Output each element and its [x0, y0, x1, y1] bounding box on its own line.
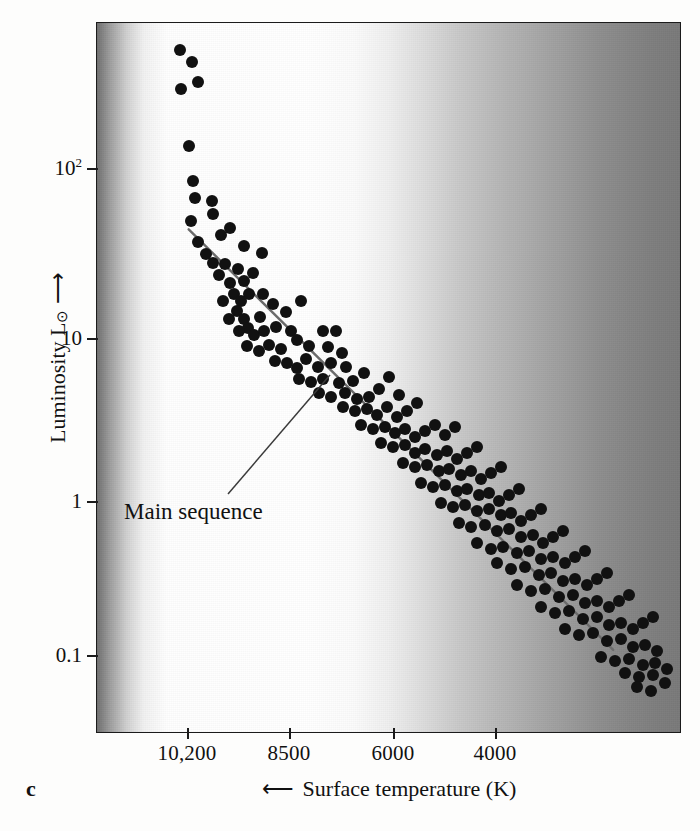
star-data-point — [623, 589, 635, 601]
star-data-point — [651, 645, 663, 657]
star-data-point — [601, 635, 613, 647]
star-data-point — [615, 633, 627, 645]
y-axis-tick — [87, 655, 98, 657]
star-data-point — [485, 543, 497, 555]
star-data-point — [207, 208, 219, 220]
star-data-point — [497, 541, 509, 553]
star-data-point — [449, 421, 461, 433]
star-data-point — [300, 353, 312, 365]
panel-label: c — [26, 776, 36, 802]
star-data-point — [577, 613, 589, 625]
star-data-point — [491, 557, 503, 569]
x-axis-arrow-icon: ⟵ — [262, 776, 294, 802]
x-axis-tick-label: 8500 — [268, 741, 311, 766]
y-axis-tick — [87, 338, 98, 340]
x-axis-tick-label: 10,200 — [158, 741, 217, 766]
y-axis-tick-label: 102 — [55, 155, 83, 181]
star-data-point — [238, 240, 250, 252]
star-data-point — [387, 441, 399, 453]
y-axis-tick-label: 0.1 — [56, 643, 82, 668]
star-data-point — [207, 257, 219, 269]
star-data-point — [373, 383, 385, 395]
star-data-point — [591, 611, 603, 623]
star-data-point — [317, 325, 329, 337]
star-data-point — [523, 545, 535, 557]
star-data-point — [347, 375, 359, 387]
star-data-point — [631, 681, 643, 693]
star-data-point — [515, 531, 527, 543]
star-data-point — [217, 295, 229, 307]
star-data-point — [247, 267, 259, 279]
star-data-point — [367, 423, 379, 435]
star-data-point — [659, 677, 671, 689]
solar-symbol-icon: ⊙ — [54, 310, 70, 323]
star-data-point — [358, 367, 370, 379]
star-data-point — [573, 629, 585, 641]
star-data-point — [192, 76, 204, 88]
star-data-point — [619, 667, 631, 679]
star-data-point — [647, 611, 659, 623]
star-data-point — [233, 325, 245, 337]
star-data-point — [535, 601, 547, 613]
star-data-point — [421, 459, 433, 471]
star-data-point — [645, 685, 657, 697]
star-data-point — [429, 419, 441, 431]
star-data-point — [189, 192, 201, 204]
scatter-points — [97, 23, 680, 732]
star-data-point — [557, 575, 569, 587]
star-data-point — [603, 619, 615, 631]
x-axis-title-text: Surface temperature (K) — [303, 776, 517, 802]
star-data-point — [313, 387, 325, 399]
star-data-point — [591, 595, 603, 607]
star-data-point — [569, 573, 581, 585]
x-axis-tick — [495, 728, 497, 739]
star-data-point — [187, 175, 199, 187]
star-data-point — [291, 334, 303, 346]
star-data-point — [317, 373, 329, 385]
star-data-point — [206, 195, 218, 207]
star-data-point — [322, 341, 334, 353]
star-data-point — [280, 306, 292, 318]
star-data-point — [355, 419, 367, 431]
star-data-point — [256, 247, 268, 259]
star-data-point — [254, 311, 266, 323]
star-data-point — [471, 441, 483, 453]
star-data-point — [351, 393, 363, 405]
star-data-point — [409, 461, 421, 473]
star-data-point — [459, 499, 471, 511]
star-data-point — [471, 505, 483, 517]
star-data-point — [174, 44, 186, 56]
star-data-point — [232, 263, 244, 275]
star-data-point — [219, 258, 231, 270]
star-data-point — [325, 357, 337, 369]
star-data-point — [545, 567, 557, 579]
star-data-point — [439, 429, 451, 441]
star-data-point — [337, 401, 349, 413]
star-data-point — [661, 663, 673, 675]
star-data-point — [371, 409, 383, 421]
star-data-point — [183, 140, 195, 152]
star-data-point — [511, 547, 523, 559]
star-data-point — [539, 583, 551, 595]
star-data-point — [330, 325, 342, 337]
star-data-point — [567, 589, 579, 601]
star-data-point — [393, 389, 405, 401]
star-data-point — [535, 503, 547, 515]
star-data-point — [401, 405, 413, 417]
x-axis-title: ⟵ Surface temperature (K) — [0, 776, 700, 802]
star-data-point — [223, 313, 235, 325]
star-data-point — [349, 405, 361, 417]
x-axis-tick-label: 4000 — [474, 741, 517, 766]
star-data-point — [339, 387, 351, 399]
star-data-point — [447, 501, 459, 513]
hr-diagram-figure: 10,200850060004000 1021010.1 Luminosity … — [0, 0, 700, 831]
star-data-point — [549, 607, 561, 619]
star-data-point — [293, 373, 305, 385]
star-data-point — [270, 321, 282, 333]
star-data-point — [559, 623, 571, 635]
star-data-point — [519, 561, 531, 573]
y-axis-title: Luminosity L⊙ ⟶ — [45, 208, 71, 508]
star-data-point — [305, 376, 317, 388]
star-data-point — [263, 339, 275, 351]
star-data-point — [275, 343, 287, 355]
